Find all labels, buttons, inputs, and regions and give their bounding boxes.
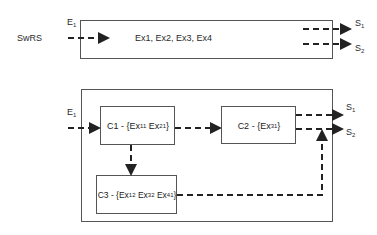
component-c3-label: C3 - {Ex12 Ex32 Ex41} [97,176,177,214]
output-s1-label: S1 [346,102,355,112]
swrs-output-s1-label: S1 [355,18,364,28]
swrs-output-s2-label: S2 [355,43,364,53]
input-label: E1 [67,107,76,117]
component-c2-label: C2 - {Ex31} [222,107,296,144]
component-c1-label: C1 - {Ex11 Ex21} [101,107,175,145]
swrs-input-label: E1 [67,17,76,27]
output-s2-label: S2 [346,127,355,137]
swrs-label: SwRS [17,33,42,43]
swrs-content: Ex1, Ex2, Ex3, Ex4 [135,33,212,43]
